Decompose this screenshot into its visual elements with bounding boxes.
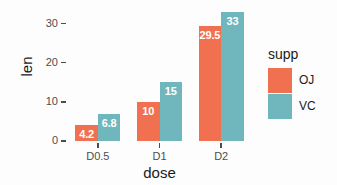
bar-oj-d0-5[interactable]: 4.2 xyxy=(75,125,98,141)
legend-item-oj[interactable]: OJ xyxy=(268,67,316,93)
y-tick-label: 10 xyxy=(24,95,58,107)
x-tick-label: D0.5 xyxy=(86,150,109,162)
bar-vc-d2[interactable]: 33 xyxy=(221,12,244,141)
y-tick-mark xyxy=(61,101,66,102)
bar-oj-d1[interactable]: 10 xyxy=(137,102,160,141)
legend: supp OJVC xyxy=(268,46,316,119)
y-tick-mark xyxy=(61,23,66,24)
y-tick-mark xyxy=(61,62,66,63)
legend-item-vc[interactable]: VC xyxy=(268,93,316,119)
bar-group: 1015 xyxy=(137,6,182,141)
x-tick-mark xyxy=(97,143,98,148)
legend-swatch-vc xyxy=(268,94,292,119)
x-tick-label: D2 xyxy=(214,150,228,162)
bar-vc-d0-5[interactable]: 6.8 xyxy=(98,114,121,141)
plot-area: 4.26.8101529.533 xyxy=(67,6,252,141)
legend-label-oj: OJ xyxy=(299,73,314,87)
legend-title: supp xyxy=(268,46,316,62)
y-tick-label: 30 xyxy=(24,17,58,29)
legend-items: OJVC xyxy=(268,67,316,119)
bar-value-label: 29.5 xyxy=(199,29,222,41)
x-tick-label: D1 xyxy=(152,150,166,162)
bar-group: 4.26.8 xyxy=(75,6,120,141)
y-tick-label: 20 xyxy=(24,56,58,68)
x-axis-title: dose xyxy=(67,164,252,181)
bar-value-label: 15 xyxy=(160,85,183,97)
legend-swatch-oj xyxy=(268,68,292,93)
x-tick-mark xyxy=(159,143,160,148)
bar-group: 29.533 xyxy=(199,6,244,141)
y-tick-mark xyxy=(61,140,66,141)
bar-value-label: 10 xyxy=(137,105,160,117)
bar-value-label: 33 xyxy=(221,15,244,27)
bar-chart: len 0102030 4.26.8101529.533 D0.5D1D2 do… xyxy=(0,0,337,185)
bar-vc-d1[interactable]: 15 xyxy=(160,82,183,141)
legend-label-vc: VC xyxy=(299,99,316,113)
y-tick-label: 0 xyxy=(24,134,58,146)
bar-value-label: 4.2 xyxy=(75,128,98,140)
bar-oj-d2[interactable]: 29.5 xyxy=(199,26,222,141)
x-tick-mark xyxy=(220,143,221,148)
bar-value-label: 6.8 xyxy=(98,117,121,129)
